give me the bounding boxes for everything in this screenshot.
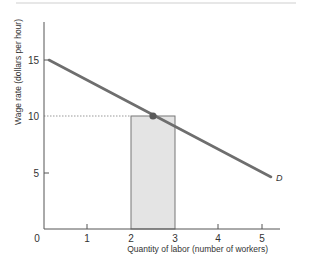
origin-label: 0: [34, 233, 40, 244]
x-axis-title: Quantity of labor (number of workers): [127, 244, 268, 254]
y-tick-label: 10: [28, 111, 40, 122]
chart: 15 10 5 0 1 2 3 4 5 Quantity of labor (n…: [0, 0, 315, 267]
x-tick-label: 1: [84, 233, 90, 244]
x-tick-label: 4: [215, 233, 221, 244]
x-tick-label: 2: [128, 233, 134, 244]
demand-curve-label: D: [276, 173, 283, 183]
y-tick-label: 5: [33, 168, 39, 179]
x-tick-label: 3: [172, 233, 178, 244]
y-axis-title: Wage rate (dollars per hour): [13, 19, 23, 125]
x-tick-label: 5: [259, 233, 265, 244]
labor-cost-rectangle: [131, 116, 175, 229]
equilibrium-point: [149, 112, 156, 119]
y-tick-label: 15: [28, 55, 40, 66]
